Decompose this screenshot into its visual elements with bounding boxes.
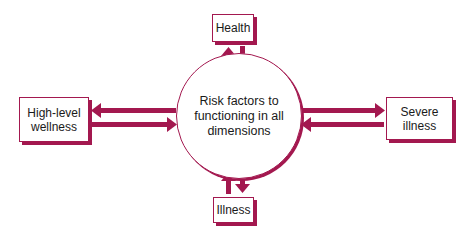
risk-factors-circle: Risk factors to functioning in all dimen…	[176, 53, 302, 179]
arrow-left-to-wellness-icon	[91, 103, 176, 118]
arrow-right-from-wellness-icon	[92, 117, 177, 132]
severe-label-line1: Severe	[400, 105, 438, 119]
health-label: Health	[216, 21, 251, 35]
illness-box: Illness	[213, 197, 254, 223]
severe-label-line2: illness	[403, 119, 436, 133]
arrow-left-from-severe-illness-icon	[301, 117, 384, 132]
severe-illness-box: Severe illness	[386, 97, 453, 140]
health-box: Health	[212, 14, 254, 42]
arrow-right-to-severe-illness-icon	[302, 103, 385, 118]
high-level-wellness-box: High-level wellness	[19, 97, 89, 142]
risk-factors-label: Risk factors to functioning in all dimen…	[189, 94, 289, 139]
wellness-label-line1: High-level	[27, 106, 80, 120]
illness-label: Illness	[216, 203, 250, 217]
wellness-label-line2: wellness	[31, 120, 77, 134]
